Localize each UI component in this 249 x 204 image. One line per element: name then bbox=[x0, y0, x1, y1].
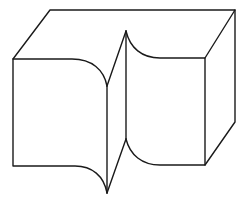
notch-v-bottom bbox=[107, 139, 126, 193]
notch-v-top bbox=[107, 31, 126, 86]
top-back-edge bbox=[13, 10, 235, 59]
front-left-face bbox=[13, 59, 107, 193]
block-with-notch-diagram bbox=[0, 0, 249, 204]
front-right-face bbox=[126, 31, 205, 165]
